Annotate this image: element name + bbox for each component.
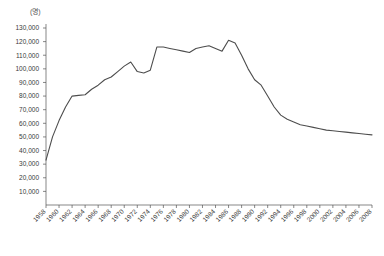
x-axis-tick-label: 1978 xyxy=(162,207,177,222)
y-axis-tick-label: 120,000 xyxy=(16,38,40,45)
x-axis-tick-label: 1972 xyxy=(123,207,138,222)
y-axis-tick-label: 110,000 xyxy=(16,52,39,59)
x-axis-tick-labels: 1958196019621964196619681970197219741976… xyxy=(32,207,373,222)
x-axis-tick-label: 1990 xyxy=(240,207,255,222)
x-axis-tick-label: 1992 xyxy=(253,207,268,222)
x-axis-tick-label: 1974 xyxy=(136,207,151,222)
x-axis-tick-label: 1976 xyxy=(149,207,164,222)
x-axis-tick-label: 1984 xyxy=(201,207,216,222)
x-axis-tick-label: 1988 xyxy=(227,207,242,222)
y-axis-tick-label: 60,000 xyxy=(19,120,39,127)
x-axis-tick-label: 1968 xyxy=(97,207,112,222)
x-axis-tick-label: 1996 xyxy=(279,207,294,222)
x-axis-tick-label: 2004 xyxy=(331,207,346,222)
x-axis-tick-label: 1966 xyxy=(84,207,99,222)
y-axis-tick-labels: 130,000120,000110,000100,00090,00080,000… xyxy=(16,24,40,194)
x-axis-tick-label: 1986 xyxy=(214,207,229,222)
x-axis-tick-marks xyxy=(46,205,372,208)
y-axis-tick-label: 50,000 xyxy=(19,133,39,140)
y-axis-tick-label: 30,000 xyxy=(19,160,39,167)
x-axis-tick-label: 1962 xyxy=(58,207,73,222)
chart-container: (명) 130,000120,000110,000100,00090,00080… xyxy=(0,0,384,256)
x-axis-tick-label: 2008 xyxy=(358,207,373,222)
x-axis-tick-label: 1960 xyxy=(45,207,60,222)
line-chart-plot: 130,000120,000110,000100,00090,00080,000… xyxy=(0,0,384,256)
y-axis-tick-label: 100,000 xyxy=(16,65,40,72)
y-axis-tick-label: 10,000 xyxy=(19,188,39,195)
x-axis-tick-label: 1994 xyxy=(266,207,281,222)
data-series-line xyxy=(46,40,372,160)
y-axis-tick-label: 130,000 xyxy=(16,24,40,31)
x-axis-tick-label: 2000 xyxy=(305,207,320,222)
x-axis-tick-label: 1964 xyxy=(71,207,86,222)
x-axis-tick-label: 1982 xyxy=(188,207,203,222)
x-axis-tick-label: 2002 xyxy=(318,207,333,222)
x-axis-tick-label: 2006 xyxy=(344,207,359,222)
x-axis-tick-label: 1998 xyxy=(292,207,307,222)
y-axis-tick-label: 40,000 xyxy=(19,147,39,154)
y-axis-tick-label: 20,000 xyxy=(19,174,39,181)
x-axis-tick-label: 1958 xyxy=(32,207,47,222)
x-axis-tick-label: 1970 xyxy=(110,207,125,222)
x-axis-tick-label: 1980 xyxy=(175,207,190,222)
y-axis-tick-label: 80,000 xyxy=(19,92,39,99)
y-axis-tick-label: 90,000 xyxy=(19,79,39,86)
y-axis-tick-label: 70,000 xyxy=(19,106,39,113)
y-axis-tick-marks xyxy=(43,28,46,191)
